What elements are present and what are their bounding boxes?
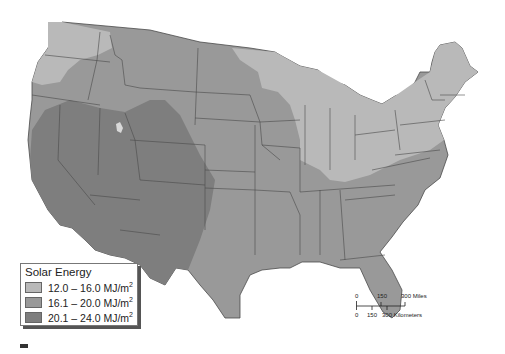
scale-miles-300: 300 Miles <box>401 293 427 299</box>
legend-label-high: 20.1 – 24.0 MJ/m2 <box>48 311 133 324</box>
scale-km-0: 0 <box>355 312 358 318</box>
legend-swatch-low <box>25 282 42 293</box>
scale-km-150: 150 <box>367 312 377 318</box>
scale-miles-150: 150 <box>377 293 387 299</box>
figure-mark <box>20 344 28 348</box>
legend-item-mid: 16.1 – 20.0 MJ/m2 <box>25 295 133 310</box>
legend-swatch-mid <box>25 297 42 308</box>
legend-label-mid: 16.1 – 20.0 MJ/m2 <box>48 296 133 309</box>
legend-label-low: 12.0 – 16.0 MJ/m2 <box>48 281 133 294</box>
scale-miles-0: 0 <box>355 293 358 299</box>
scale-bar: 0 150 300 Miles 0 150 300 Kilometers <box>355 293 430 323</box>
legend-item-high: 20.1 – 24.0 MJ/m2 <box>25 310 133 325</box>
scale-bar-line <box>355 300 415 312</box>
legend-title: Solar Energy <box>25 266 133 279</box>
legend-item-low: 12.0 – 16.0 MJ/m2 <box>25 280 133 295</box>
legend: Solar Energy 12.0 – 16.0 MJ/m2 16.1 – 20… <box>20 263 138 326</box>
scale-km-300: 300 Kilometers <box>382 312 422 318</box>
legend-swatch-high <box>25 312 42 323</box>
